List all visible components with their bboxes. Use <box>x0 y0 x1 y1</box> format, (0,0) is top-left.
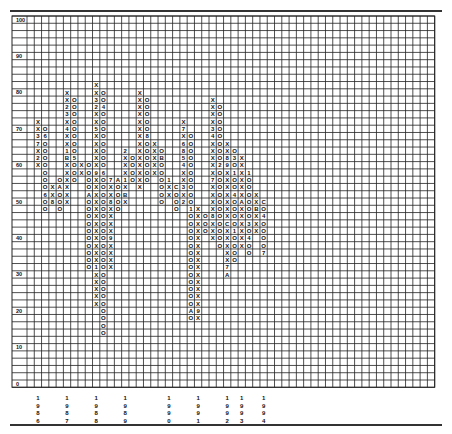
x-box: X <box>94 293 98 299</box>
x-box: X <box>94 177 98 183</box>
x-box: X <box>65 119 69 125</box>
x-box: X <box>65 133 69 139</box>
month-marker: 7 <box>109 177 113 183</box>
x-box: X <box>80 162 84 168</box>
o-box: O <box>101 323 106 329</box>
o-box: O <box>188 293 193 299</box>
o-box: O <box>232 257 237 263</box>
o-box: O <box>188 286 193 292</box>
x-box: X <box>196 235 200 241</box>
month-marker: 8 <box>226 155 230 161</box>
o-box: O <box>218 155 223 161</box>
o-box: O <box>145 148 150 154</box>
o-box: O <box>247 192 252 198</box>
x-box: X <box>109 228 113 234</box>
o-box: O <box>218 228 223 234</box>
x-box: X <box>94 257 98 263</box>
o-box: O <box>101 141 106 147</box>
x-box: X <box>138 155 142 161</box>
year-label: 1 9 8 9 <box>121 395 129 425</box>
month-marker: B <box>123 192 128 198</box>
month-marker: 2 <box>94 104 98 110</box>
o-box: O <box>218 111 223 117</box>
month-marker: 2 <box>124 148 128 154</box>
o-box: O <box>101 177 106 183</box>
o-box: O <box>87 243 92 249</box>
x-box: X <box>196 243 200 249</box>
x-box: X <box>225 228 229 234</box>
x-box: X <box>167 192 171 198</box>
o-box: O <box>232 213 237 219</box>
x-box: X <box>123 155 127 161</box>
o-box: O <box>130 170 135 176</box>
x-box: X <box>65 184 69 190</box>
y-axis-tick-label: 30 <box>16 271 22 277</box>
o-box: O <box>218 104 223 110</box>
x-box: X <box>109 257 113 263</box>
o-box: O <box>57 199 62 205</box>
month-marker: 8 <box>145 133 149 139</box>
month-marker: 4 <box>182 162 186 168</box>
o-box: O <box>247 213 252 219</box>
x-box: X <box>211 162 215 168</box>
o-box: O <box>203 213 208 219</box>
x-box: X <box>123 199 127 205</box>
o-box: O <box>101 213 106 219</box>
x-box: X <box>196 213 200 219</box>
o-box: O <box>130 155 135 161</box>
o-box: O <box>116 199 121 205</box>
y-axis-tick-label: 90 <box>16 53 22 59</box>
year-label: 1 9 8 7 <box>63 395 71 425</box>
o-box: O <box>203 228 208 234</box>
month-marker: 5 <box>73 155 77 161</box>
x-box: X <box>196 206 200 212</box>
o-box: O <box>130 162 135 168</box>
month-marker: C <box>225 221 230 227</box>
x-box: X <box>109 243 113 249</box>
x-box: X <box>80 170 84 176</box>
x-box: X <box>109 221 113 227</box>
month-marker: C <box>174 184 179 190</box>
year-label: 1 9 9 1 <box>194 395 202 425</box>
month-marker: 3 <box>36 133 40 139</box>
x-box: X <box>225 250 229 256</box>
x-box: X <box>94 155 98 161</box>
x-box: X <box>65 199 69 205</box>
o-box: O <box>87 170 92 176</box>
x-box: X <box>254 192 258 198</box>
o-box: O <box>87 184 92 190</box>
x-box: X <box>240 177 244 183</box>
o-box: O <box>159 192 164 198</box>
x-box: X <box>196 286 200 292</box>
o-box: O <box>159 184 164 190</box>
x-box: X <box>65 97 69 103</box>
x-box: X <box>225 192 229 198</box>
o-box: O <box>232 177 237 183</box>
o-box: O <box>101 126 106 132</box>
x-box: X <box>225 148 229 154</box>
o-box: O <box>101 162 106 168</box>
x-box: X <box>240 192 244 198</box>
month-marker: 3 <box>211 126 215 132</box>
o-box: O <box>188 177 193 183</box>
x-box: X <box>109 213 113 219</box>
o-box: O <box>57 192 62 198</box>
o-box: O <box>43 170 48 176</box>
o-box: O <box>188 133 193 139</box>
o-box: O <box>101 293 106 299</box>
o-box: O <box>188 148 193 154</box>
o-box: O <box>43 148 48 154</box>
month-marker: 6 <box>44 192 48 198</box>
o-box: O <box>232 199 237 205</box>
o-box: O <box>101 315 106 321</box>
o-box: O <box>101 133 106 139</box>
x-box: X <box>196 272 200 278</box>
x-box: X <box>65 162 69 168</box>
month-marker: 9 <box>109 235 113 241</box>
o-box: O <box>101 155 106 161</box>
o-box: O <box>218 243 223 249</box>
x-box: X <box>152 162 156 168</box>
o-box: O <box>101 301 106 307</box>
x-box: X <box>65 192 69 198</box>
o-box: O <box>130 177 135 183</box>
